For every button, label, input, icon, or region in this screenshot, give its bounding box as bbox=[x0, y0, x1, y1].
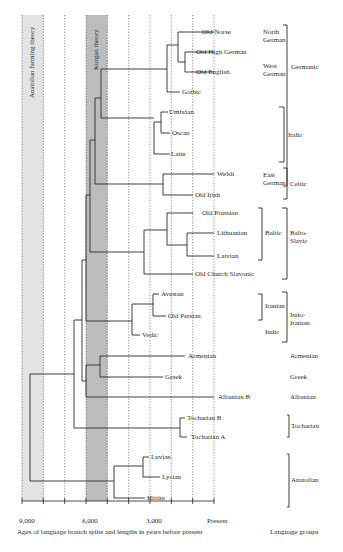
balto-slavic-bracket bbox=[282, 208, 287, 279]
axis-tick-9000: 9,000 bbox=[19, 517, 35, 525]
tocharian-bracket bbox=[287, 415, 289, 437]
group-balto-slavic: Balto-Slavic bbox=[290, 229, 312, 245]
axis-tick-present: Present bbox=[207, 517, 228, 525]
group-brackets bbox=[258, 25, 289, 507]
language-label: Gothic bbox=[182, 88, 201, 96]
language-tree-diagram bbox=[0, 0, 343, 552]
group-albanian: Albanian bbox=[290, 393, 316, 401]
language-label: Oscan bbox=[172, 129, 190, 137]
group-celtic: Celtic bbox=[290, 180, 307, 188]
language-label: Lithuanian bbox=[217, 229, 247, 237]
axis-tick-3000: 3,000 bbox=[146, 517, 162, 525]
baltic-bracket bbox=[258, 208, 262, 260]
language-label: Old Irish bbox=[195, 191, 220, 199]
language-label: Tocharian B bbox=[187, 414, 221, 422]
language-label: Umbrian bbox=[169, 108, 194, 116]
anatolian-bracket bbox=[287, 454, 289, 507]
language-label: Welsh bbox=[217, 170, 234, 178]
subgroup-east-german: East German bbox=[263, 171, 287, 187]
italic-bracket bbox=[279, 107, 284, 162]
iranian-bracket bbox=[258, 294, 262, 320]
groups-caption: Language groups bbox=[270, 528, 318, 536]
anatolian-theory-label: Anatolian farming theory bbox=[28, 27, 36, 98]
language-label: Armenian bbox=[188, 352, 216, 360]
language-label: Greek bbox=[165, 373, 182, 381]
group-anatolian: Anatolian bbox=[291, 476, 319, 484]
language-label: Luvian bbox=[151, 453, 171, 461]
language-label: Old Prussian bbox=[202, 209, 238, 217]
language-label: Old High German bbox=[196, 48, 247, 56]
language-label: Old Church Slavonic bbox=[195, 270, 254, 278]
language-label: Old English bbox=[196, 68, 230, 76]
group-germanic: Germanic bbox=[291, 63, 319, 71]
indo-iranian-bracket bbox=[282, 292, 287, 342]
language-label: Lycian bbox=[162, 473, 181, 481]
subgroup-west-german: West German bbox=[263, 62, 287, 78]
subgroup-iranian: Iranian bbox=[265, 302, 285, 310]
group-tocharian: Tocharian bbox=[291, 422, 319, 430]
axis-tick-6000: 6,000 bbox=[82, 517, 98, 525]
subgroup-baltic: Baltic bbox=[265, 229, 282, 237]
group-italic: Italic bbox=[288, 131, 302, 139]
language-label: Avestan bbox=[161, 290, 183, 298]
language-label: Latvian bbox=[217, 252, 238, 260]
subgroup-indic: Indic bbox=[265, 328, 279, 336]
language-label: Albanian B bbox=[218, 393, 250, 401]
tree-branches bbox=[30, 32, 214, 498]
language-label: Hittite bbox=[147, 494, 165, 502]
language-label: Vedic bbox=[142, 331, 158, 339]
axis-caption: Ages of language branch splits and lengt… bbox=[17, 528, 202, 536]
group-indo-iranian: Indo-Iranian bbox=[290, 311, 312, 327]
time-axis bbox=[22, 498, 214, 504]
language-label: Old Norse bbox=[202, 28, 231, 36]
language-label: Latin bbox=[171, 150, 186, 158]
kurgan-theory-label: Kurgan theory bbox=[92, 30, 100, 71]
language-label: Tocharian A bbox=[191, 433, 225, 441]
group-greek: Greek bbox=[290, 373, 307, 381]
group-armenian: Armenian bbox=[290, 352, 318, 360]
language-label: Old Persian bbox=[168, 312, 201, 320]
subgroup-north-german: North German bbox=[263, 28, 287, 44]
